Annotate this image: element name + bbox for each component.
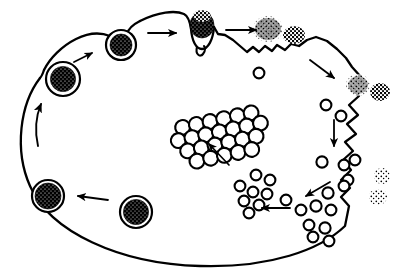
vesicle-upper-arc: [106, 30, 136, 60]
free-vesicle: [339, 181, 350, 192]
free-vesicle: [248, 187, 259, 198]
free-vesicle: [262, 189, 273, 200]
arrow-upper-right-diagonal: [310, 60, 334, 78]
free-vesicle: [310, 200, 321, 211]
free-vesicle: [265, 175, 276, 186]
free-vesicle: [308, 232, 319, 243]
free-vesicle: [239, 196, 250, 207]
free-vesicle: [304, 220, 315, 231]
free-vesicle: [235, 181, 246, 192]
vesicle-bottom-mid: [120, 196, 152, 228]
vesicle-top-left-inner: [46, 62, 80, 96]
free-vesicle: [244, 208, 255, 219]
free-vesicle: [350, 155, 361, 166]
particle-lower-right-a: [374, 168, 390, 184]
free-vesicle: [324, 236, 335, 247]
particle-right-b: [370, 83, 390, 101]
free-vesicle: [296, 205, 307, 216]
particle-top-right-b: [283, 26, 305, 44]
free-vesicle: [281, 195, 292, 206]
arrow-upper-left-diagonal: [74, 53, 92, 62]
coated-vesicle-group: [32, 10, 214, 228]
free-vesicle: [321, 100, 332, 111]
arrow-group: [36, 30, 334, 208]
diagram-canvas: [0, 0, 403, 277]
arrow-left-upward: [36, 104, 41, 146]
free-vesicle: [339, 160, 350, 171]
particle-right-a-halo: [346, 74, 370, 96]
free-vesicle: [251, 170, 262, 181]
free-vesicle: [316, 156, 327, 167]
arrow-bottom-left-horizontal: [78, 196, 108, 200]
free-vesicle: [326, 205, 337, 216]
free-vesicle: [319, 222, 330, 233]
free-vesicle: [254, 68, 265, 79]
particle-top-right-a-halo: [253, 16, 283, 42]
cell-diagram-figure: [0, 0, 403, 277]
cargo-in-phagocytic-cup: [190, 10, 214, 38]
free-vesicle: [322, 187, 333, 198]
vesicle-bottom-left: [32, 180, 64, 212]
free-vesicle: [336, 111, 347, 122]
particle-lower-right-b: [369, 189, 387, 205]
central-lattice: [167, 103, 274, 173]
